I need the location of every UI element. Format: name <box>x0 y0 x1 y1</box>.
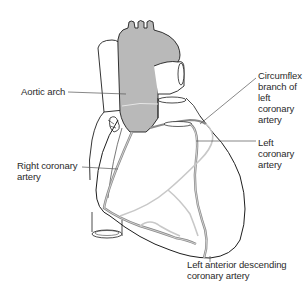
label-left-anterior-descending-artery: Left anterior descending coronary artery <box>187 259 287 281</box>
label-circumflex-branch: Circumflex branch of left coronary arter… <box>258 70 304 125</box>
right-coronary-artery-path <box>104 132 196 244</box>
label-left-coronary-artery: Left coronary artery <box>258 137 304 170</box>
label-aortic-arch: Aortic arch <box>21 86 65 97</box>
aortic-arch <box>118 21 200 133</box>
label-right-coronary-artery: Right coronary artery <box>17 160 77 182</box>
